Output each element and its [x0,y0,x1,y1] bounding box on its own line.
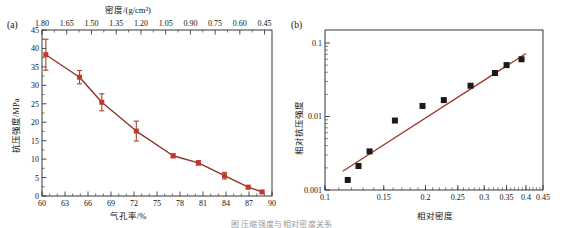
panel-a-x-tick: 81 [199,199,207,208]
panel-a-datapoint [77,71,82,84]
figure-container: (a) 密度/(g/cm³) 气孔率/% 抗压强度/MPa 6063666972… [0,0,563,228]
panel-a-x-tick: 60 [38,199,46,208]
panel-a-x-tick: 72 [130,199,138,208]
panel-b-datapoint [468,83,474,89]
panel-a: (a) 密度/(g/cm³) 气孔率/% 抗压强度/MPa 6063666972… [0,0,285,228]
panel-b-datapoint [367,148,373,154]
panel-a-x-tick: 69 [107,199,115,208]
panel-a-top-tick: 0.90 [183,19,197,28]
panel-b-datapoint [420,103,426,109]
panel-a-top-tick: 1.65 [60,19,74,28]
panel-b-datapoint [504,62,510,68]
panel-a-y-tick: 10 [31,155,39,164]
panel-a-y-tick: 5 [35,173,39,182]
panel-b-x-tick: 0.2 [420,193,430,202]
panel-a-top-tick: 0.75 [208,19,222,28]
panel-b-x-tick: 0.15 [377,193,391,202]
panel-b-datapoint [519,56,525,62]
panel-a-y-tick: 30 [31,81,39,90]
panel-a-datapoint [134,121,139,141]
panel-b-x-tick: 0.25 [451,193,465,202]
panel-a-y-tick: 35 [31,62,39,71]
panel-a-plot [0,0,285,228]
panel-a-x-tick: 75 [153,199,161,208]
panel-b: (b) 相对密度 相对抗压强度 0.10.150.20.250.30.350.4… [285,0,563,228]
panel-a-y-tick: 0 [35,192,39,201]
panel-a-datapoint [171,153,176,158]
panel-a-datapoint [246,185,251,190]
panel-b-x-tick: 0.4 [521,193,531,202]
panel-a-y-tick: 20 [31,118,39,127]
panel-a-x-tick: 84 [222,199,230,208]
panel-a-x-tick: 78 [176,199,184,208]
panel-b-datapoint [392,118,398,124]
panel-a-datapoint [99,94,104,111]
panel-b-datapoint [345,177,351,183]
panel-a-datapoint [222,172,227,179]
panel-b-y-tick: 0.01 [308,112,322,121]
panel-a-datapoint [43,39,48,70]
panel-a-datapoint [259,189,264,194]
figure-caption: 图 压缩强度与相对密度关系 [0,218,563,228]
panel-b-datapoint [441,97,447,103]
panel-a-x-tick: 87 [245,199,253,208]
panel-b-x-tick: 0.35 [500,193,514,202]
panel-a-x-tick: 90 [268,199,276,208]
panel-b-y-tick: 0.001 [304,186,322,195]
panel-a-top-tick: 0.60 [233,19,247,28]
panel-a-y-tick: 25 [31,99,39,108]
panel-b-x-tick: 0.45 [536,193,550,202]
panel-a-x-tick: 66 [84,199,92,208]
panel-a-top-tick: 1.05 [159,19,173,28]
panel-a-y-tick: 45 [31,26,39,35]
panel-b-x-tick: 0.3 [479,193,489,202]
panel-a-y-tick: 40 [31,44,39,53]
panel-b-datapoint [492,70,498,76]
panel-a-y-tick: 15 [31,136,39,145]
panel-a-x-tick: 63 [61,199,69,208]
panel-a-top-tick: 1.20 [134,19,148,28]
panel-b-y-tick: 0.1 [312,38,322,47]
panel-b-datapoint [355,163,361,169]
panel-a-datapoint [196,160,201,165]
panel-a-top-tick: 1.35 [109,19,123,28]
panel-a-top-tick: 0.45 [258,19,272,28]
panel-a-top-tick: 1.50 [84,19,98,28]
